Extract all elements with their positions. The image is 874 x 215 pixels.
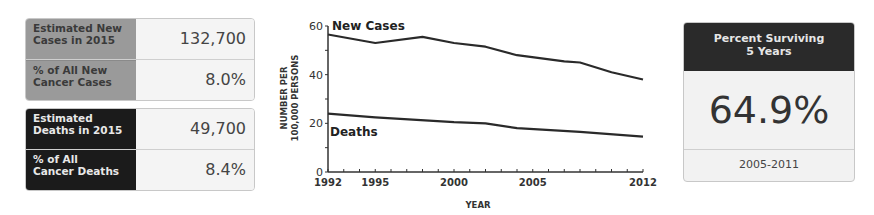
deaths-row: EstimatedDeaths in 2015 49,700	[26, 109, 254, 149]
y-axis-title: NUMBER PER 100,000 PERSONS	[279, 55, 300, 142]
y-tick-label: 20	[309, 117, 323, 130]
new-cases-value: 132,700	[136, 19, 254, 59]
chart-axes: 020406019921995200020052012	[309, 20, 657, 188]
pct-deaths-value: 8.4%	[136, 150, 254, 190]
survival-value: 64.9%	[684, 71, 854, 150]
deaths-label: EstimatedDeaths in 2015	[26, 109, 136, 149]
pct-new-value: 8.0%	[136, 60, 254, 100]
pct-deaths-row: % of AllCancer Deaths 8.4%	[26, 149, 254, 190]
pct-new-label: % of All NewCancer Cases	[26, 60, 136, 100]
survival-range: 2005-2011	[684, 150, 854, 180]
series-line-new-cases	[328, 35, 643, 80]
deaths-value: 49,700	[136, 109, 254, 149]
x-tick-label: 2000	[440, 177, 468, 188]
x-tick-label: 1995	[361, 177, 389, 188]
incidence-line-chart: 020406019921995200020052012 New Cases De…	[260, 0, 680, 215]
series-label-new-cases: New Cases	[332, 19, 405, 33]
pct-deaths-label: % of AllCancer Deaths	[26, 150, 136, 190]
new-cases-label: Estimated NewCases in 2015	[26, 19, 136, 59]
x-tick-label: 1992	[314, 177, 342, 188]
chart-series	[328, 35, 643, 137]
svg-text:NUMBER PER: NUMBER PER	[279, 66, 289, 129]
svg-text:100,000 PERSONS: 100,000 PERSONS	[290, 55, 300, 142]
y-tick-label: 40	[309, 69, 323, 82]
survival-box: Percent Surviving5 Years 64.9% 2005-2011	[683, 22, 855, 182]
x-axis-title: YEAR	[464, 200, 491, 210]
deaths-stat-box: EstimatedDeaths in 2015 49,700 % of AllC…	[25, 108, 255, 191]
pct-new-row: % of All NewCancer Cases 8.0%	[26, 59, 254, 100]
survival-header: Percent Surviving5 Years	[684, 23, 854, 71]
x-tick-label: 2005	[519, 177, 547, 188]
new-cases-stat-box: Estimated NewCases in 2015 132,700 % of …	[25, 18, 255, 101]
new-cases-row: Estimated NewCases in 2015 132,700	[26, 19, 254, 59]
series-label-deaths: Deaths	[330, 125, 378, 139]
y-tick-label: 60	[309, 20, 323, 33]
x-tick-label: 2012	[629, 177, 657, 188]
